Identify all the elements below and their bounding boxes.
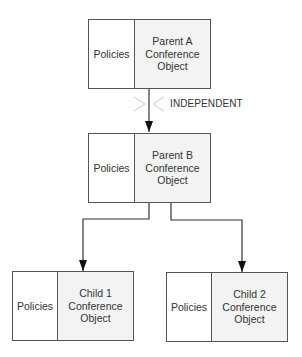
policies-cell: Policies	[167, 273, 212, 341]
conference-object-cell: Parent B Conference Object	[135, 134, 210, 202]
conference-object-cell: Child 2 Conference Object	[212, 273, 287, 341]
policies-cell: Policies	[89, 20, 135, 88]
node-parent-b: Policies Parent B Conference Object	[88, 133, 211, 203]
conference-object-cell: Child 1 Conference Object	[58, 272, 133, 340]
edge-parent-b-to-child-1	[79, 202, 149, 271]
node-child-1: Policies Child 1 Conference Object	[12, 271, 134, 341]
node-parent-a: Policies Parent A Conference Object	[88, 19, 211, 89]
edge-parent-b-to-child-2	[171, 202, 246, 272]
edge-parent-a-to-parent-b	[145, 88, 153, 132]
conference-object-cell: Parent A Conference Object	[135, 20, 210, 88]
policies-cell: Policies	[89, 134, 135, 202]
policies-cell: Policies	[13, 272, 58, 340]
node-child-2: Policies Child 2 Conference Object	[166, 272, 288, 342]
edge-label-independent: INDEPENDENT	[170, 98, 243, 109]
